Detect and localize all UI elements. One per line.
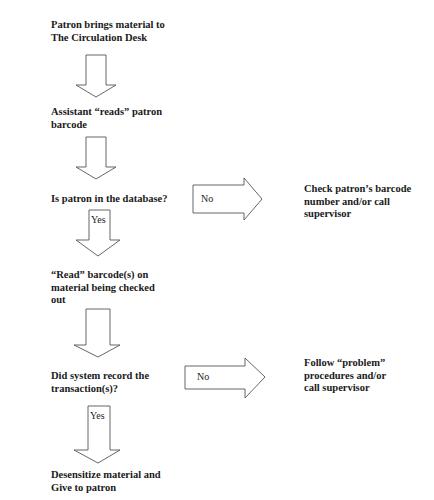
node-read-patron-barcode: Assistant “reads” patron barcode: [51, 106, 162, 131]
edge-label-no-2: No: [197, 371, 209, 383]
down-arrow-2: [76, 137, 116, 179]
decision-patron-in-database: Is patron in the database?: [51, 193, 168, 206]
decision-system-recorded: Did system record the transaction(s)?: [51, 370, 149, 395]
down-arrow-3: [74, 309, 120, 357]
node-read-material-barcode: “Read” barcode(s) on material being chec…: [51, 269, 155, 307]
node-start: Patron brings material to The Circulatio…: [51, 19, 165, 44]
node-desensitize-material: Desensitize material and Give to patron: [51, 469, 161, 494]
node-check-barcode: Check patron’s barcode number and/or cal…: [304, 183, 411, 221]
node-follow-problem-procedures: Follow “problem” procedures and/or call …: [304, 357, 386, 395]
edge-label-no-1: No: [201, 193, 213, 205]
down-arrow-1: [76, 55, 116, 97]
edge-label-yes-1: Yes: [91, 214, 106, 226]
arrows-layer: [0, 0, 434, 500]
edge-label-yes-2: Yes: [90, 410, 105, 422]
